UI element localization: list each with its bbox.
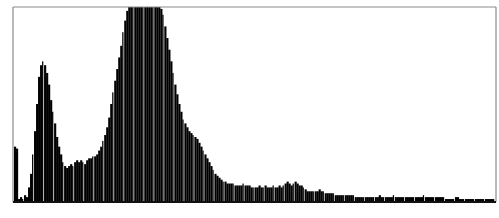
- histogram-bar: [112, 92, 113, 201]
- histogram-bar: [333, 193, 334, 201]
- histogram-bar: [293, 184, 294, 201]
- histogram-bar: [339, 195, 341, 201]
- histogram-bar: [275, 187, 277, 201]
- histogram-bar: [176, 94, 178, 201]
- histogram-bar: [441, 197, 443, 201]
- histogram-chart: [0, 0, 499, 218]
- histogram-bar: [313, 191, 314, 201]
- histogram-bar: [347, 195, 349, 201]
- histogram-bar: [445, 199, 447, 201]
- histogram-bar: [493, 199, 494, 201]
- histogram-bar: [377, 197, 379, 201]
- histogram-bar: [305, 189, 307, 201]
- histogram-bar: [30, 174, 32, 201]
- histogram-bar: [128, 7, 130, 201]
- histogram-bar: [106, 127, 108, 201]
- histogram-bar: [204, 154, 206, 201]
- histogram-bar: [82, 162, 83, 201]
- histogram-bar: [309, 191, 311, 201]
- histogram-bar: [361, 197, 363, 201]
- histogram-bar: [34, 131, 36, 201]
- histogram-bar: [194, 137, 196, 201]
- histogram-bar: [154, 7, 156, 201]
- histogram-bar: [431, 197, 433, 201]
- histogram-bar: [94, 156, 96, 201]
- histogram-bar: [289, 184, 291, 201]
- histogram-bar: [481, 199, 483, 201]
- histogram-bar: [66, 168, 68, 201]
- histogram-bar: [22, 199, 23, 201]
- histogram-bar: [407, 197, 409, 201]
- histogram-bar: [273, 185, 274, 201]
- histogram-bar: [359, 197, 361, 201]
- histogram-bar: [162, 15, 163, 201]
- histogram-bar: [253, 187, 254, 201]
- histogram-bar: [26, 197, 28, 201]
- histogram-bar: [142, 7, 143, 201]
- histogram-bar: [108, 118, 110, 201]
- histogram-bar: [375, 197, 377, 201]
- histogram-bar: [54, 123, 56, 201]
- histogram-bar: [90, 158, 92, 201]
- histogram-bar: [367, 197, 369, 201]
- histogram-bar: [357, 197, 359, 201]
- histogram-bar: [118, 57, 120, 201]
- histogram-bar: [24, 195, 26, 201]
- histogram-bar: [299, 185, 301, 201]
- histogram-bar: [325, 193, 327, 201]
- histogram-bar: [110, 104, 112, 201]
- histogram-bar: [14, 147, 16, 201]
- histogram-bar: [301, 185, 303, 201]
- histogram-bar: [174, 85, 176, 201]
- histogram-bar: [409, 197, 411, 201]
- histogram-bar: [263, 187, 264, 201]
- histogram-bar: [387, 197, 389, 201]
- histogram-bar: [16, 149, 18, 201]
- histogram-bar: [279, 185, 281, 201]
- histogram-bar: [122, 32, 123, 201]
- histogram-bar: [419, 197, 421, 201]
- histogram-bar: [78, 162, 80, 201]
- histogram-bar: [423, 195, 424, 201]
- histogram-bar: [240, 185, 242, 201]
- histogram-bar: [255, 187, 257, 201]
- histogram-bar: [150, 7, 152, 201]
- histogram-bar: [473, 199, 474, 201]
- histogram-bar: [50, 100, 52, 201]
- histogram-bar: [457, 197, 459, 201]
- histogram-bar: [331, 193, 333, 201]
- histogram-bar: [248, 185, 250, 201]
- histogram-bar: [32, 154, 33, 201]
- histogram-bar: [18, 199, 20, 201]
- histogram-bar: [461, 199, 463, 201]
- histogram-bar: [212, 170, 213, 201]
- histogram-bar: [98, 151, 100, 201]
- histogram-bar: [383, 197, 384, 201]
- histogram-bar: [487, 199, 489, 201]
- histogram-bar: [465, 199, 467, 201]
- histogram-bar: [369, 197, 371, 201]
- histogram-bar: [297, 184, 299, 201]
- histogram-bar: [68, 166, 70, 201]
- histogram-bar: [427, 197, 429, 201]
- histogram-bar: [449, 199, 451, 201]
- histogram-bar: [214, 174, 216, 201]
- histogram-bar: [116, 69, 118, 201]
- histogram-bar: [405, 197, 407, 201]
- histogram-bar: [303, 187, 304, 201]
- histogram-bar: [246, 185, 248, 201]
- histogram-bar: [70, 164, 72, 201]
- histogram-bar: [393, 195, 394, 201]
- histogram-bar: [259, 185, 261, 201]
- histogram-bar: [395, 197, 397, 201]
- histogram-bar: [148, 7, 150, 201]
- histogram-bar: [96, 154, 98, 201]
- histogram-bar: [228, 184, 230, 201]
- histogram-bar: [459, 199, 461, 201]
- histogram-bar: [285, 184, 287, 201]
- histogram-bar: [184, 123, 186, 201]
- histogram-bar: [351, 195, 353, 201]
- histogram-bar: [355, 197, 357, 201]
- histogram-bar: [188, 131, 190, 201]
- histogram-bar: [433, 197, 434, 201]
